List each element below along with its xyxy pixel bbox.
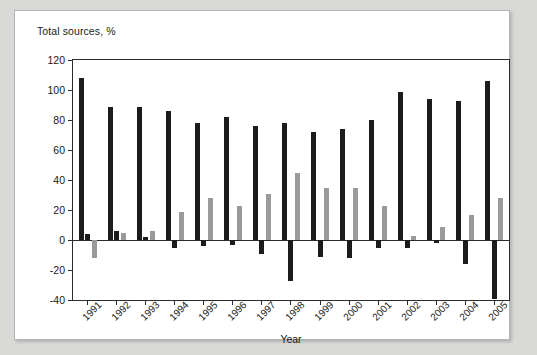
bar-internal-funds-1997 — [253, 126, 258, 240]
bar-net-borrowing-1991 — [92, 240, 97, 258]
bar-group-1998: 1998 — [276, 60, 305, 300]
x-axis-tick — [465, 300, 466, 305]
x-axis-tick-label-2001: 2001 — [370, 299, 394, 323]
x-axis-tick — [116, 300, 117, 305]
x-axis-tick-label-2005: 2005 — [487, 299, 511, 323]
x-axis-tick — [261, 300, 262, 305]
x-axis-tick-label-1993: 1993 — [138, 299, 162, 323]
x-axis-tick-label-2002: 2002 — [399, 299, 423, 323]
y-axis-tick-label: 100 — [47, 84, 65, 96]
bar-net-equity-issues-1996 — [230, 240, 235, 245]
x-axis-tick — [145, 300, 146, 305]
bar-net-borrowing-2002 — [411, 236, 416, 241]
bar-group-1997: 1997 — [247, 60, 276, 300]
bar-group-2003: 2003 — [422, 60, 451, 300]
x-axis-tick — [174, 300, 175, 305]
bar-net-equity-issues-1992 — [114, 231, 119, 240]
x-axis-tick-label-2004: 2004 — [457, 299, 481, 323]
bar-group-1996: 1996 — [218, 60, 247, 300]
bar-internal-funds-1994 — [166, 111, 171, 240]
bar-group-1992: 1992 — [102, 60, 131, 300]
x-axis-tick-label-1999: 1999 — [312, 299, 336, 323]
bar-internal-funds-2005 — [485, 81, 490, 240]
x-axis-tick — [436, 300, 437, 305]
bar-internal-funds-1993 — [137, 107, 142, 241]
x-axis-tick-label-1998: 1998 — [283, 299, 307, 323]
x-axis-tick — [378, 300, 379, 305]
bar-internal-funds-1992 — [108, 107, 113, 241]
bar-internal-funds-2004 — [456, 101, 461, 241]
x-axis-tick-label-2000: 2000 — [341, 299, 365, 323]
bar-net-borrowing-2005 — [498, 198, 503, 240]
bar-net-borrowing-1994 — [179, 212, 184, 241]
bar-net-equity-issues-1995 — [201, 240, 206, 246]
y-axis-tick-label: 20 — [53, 204, 65, 216]
bar-net-equity-issues-2004 — [463, 240, 468, 264]
bar-internal-funds-1996 — [224, 117, 229, 240]
bar-group-1991: 1991 — [73, 60, 102, 300]
x-axis-tick-label-1991: 1991 — [80, 299, 104, 323]
bar-internal-funds-2001 — [369, 120, 374, 240]
bar-net-equity-issues-2005 — [492, 240, 497, 299]
bar-net-borrowing-1993 — [150, 231, 155, 240]
bar-group-2004: 2004 — [451, 60, 480, 300]
bar-net-borrowing-2001 — [382, 206, 387, 241]
y-axis-tick-label: -40 — [50, 294, 65, 306]
y-axis-title: Total sources, % — [37, 25, 116, 37]
y-axis-tick-label: 80 — [53, 114, 65, 126]
x-axis-tick — [87, 300, 88, 305]
figure-canvas: Total sources, % Internal funds Net equi… — [0, 0, 537, 355]
x-axis-title: Year — [72, 333, 510, 345]
bar-group-2005: 2005 — [480, 60, 509, 300]
y-axis-tick-label: 120 — [47, 54, 65, 66]
y-axis-tick-label: 60 — [53, 144, 65, 156]
bar-net-equity-issues-2002 — [405, 240, 410, 248]
bar-internal-funds-1995 — [195, 123, 200, 240]
bar-group-1994: 1994 — [160, 60, 189, 300]
bar-group-1993: 1993 — [131, 60, 160, 300]
bar-net-equity-issues-2003 — [434, 240, 439, 243]
x-axis-tick — [232, 300, 233, 305]
bar-net-borrowing-1996 — [237, 206, 242, 241]
x-axis-tick — [349, 300, 350, 305]
x-axis-tick-label-1995: 1995 — [196, 299, 220, 323]
x-axis-tick-label-1994: 1994 — [167, 299, 191, 323]
bar-net-borrowing-2000 — [353, 188, 358, 241]
bar-net-borrowing-1997 — [266, 194, 271, 241]
x-axis-tick-label-2003: 2003 — [428, 299, 452, 323]
bar-internal-funds-2003 — [427, 99, 432, 240]
bar-net-borrowing-1992 — [121, 233, 126, 241]
x-axis-tick — [290, 300, 291, 305]
bar-net-borrowing-2004 — [469, 215, 474, 241]
bar-group-1995: 1995 — [189, 60, 218, 300]
bar-net-equity-issues-2000 — [347, 240, 352, 258]
bar-net-equity-issues-1998 — [288, 240, 293, 281]
x-axis-tick-label-1996: 1996 — [225, 299, 249, 323]
y-axis-tick-label: 0 — [59, 234, 65, 246]
bar-net-equity-issues-2001 — [376, 240, 381, 248]
chart-sheet: Total sources, % Internal funds Net equi… — [14, 10, 510, 340]
bar-internal-funds-1999 — [311, 132, 316, 240]
bar-internal-funds-2002 — [398, 92, 403, 241]
bar-internal-funds-1991 — [79, 78, 84, 240]
x-axis-tick — [494, 300, 495, 305]
x-axis-tick-label-1997: 1997 — [254, 299, 278, 323]
bar-group-2001: 2001 — [364, 60, 393, 300]
bar-net-borrowing-1999 — [324, 188, 329, 241]
y-axis-tick-label: 40 — [53, 174, 65, 186]
bar-net-equity-issues-1994 — [172, 240, 177, 248]
bar-net-equity-issues-1991 — [85, 234, 90, 240]
bar-group-1999: 1999 — [306, 60, 335, 300]
bar-groups: 1991199219931994199519961997199819992000… — [73, 60, 509, 300]
bar-internal-funds-2000 — [340, 129, 345, 240]
bar-internal-funds-1998 — [282, 123, 287, 240]
bar-net-equity-issues-1999 — [318, 240, 323, 257]
bar-group-2000: 2000 — [335, 60, 364, 300]
bar-net-borrowing-1998 — [295, 173, 300, 241]
bar-group-2002: 2002 — [393, 60, 422, 300]
bar-net-borrowing-2003 — [440, 227, 445, 241]
bar-net-equity-issues-1993 — [143, 237, 148, 240]
bar-net-borrowing-1995 — [208, 198, 213, 240]
x-axis-tick-label-1992: 1992 — [109, 299, 133, 323]
y-axis-tick-label: -20 — [50, 264, 65, 276]
